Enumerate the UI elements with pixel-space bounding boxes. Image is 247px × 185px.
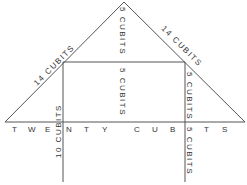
- apex-height-label: 5 CUBITS: [118, 7, 127, 55]
- base-letter: C: [134, 125, 140, 134]
- base-letter: S: [222, 125, 227, 134]
- room-height-center-label: 5 CUBITS: [118, 68, 127, 116]
- room-height-right-label: 5 CUBITS: [185, 72, 194, 120]
- base-letter: E: [45, 125, 50, 134]
- base-letter: Y: [102, 125, 108, 134]
- base-letter: T: [204, 125, 209, 134]
- base-letter: W: [28, 125, 36, 134]
- base-letter: T: [84, 125, 89, 134]
- right-lower-label: 5 CUBITS: [185, 127, 194, 175]
- left-slope-label: 14 CUBITS: [32, 43, 77, 88]
- left-post-label: 10 CUBITS: [54, 104, 63, 158]
- tabernacle-measurement-diagram: 14 CUBITS 14 CUBITS 5 CUBITS 5 CUBITS 5 …: [0, 0, 247, 185]
- base-letter: N: [66, 125, 72, 134]
- base-letter: T: [12, 125, 17, 134]
- base-letter: U: [152, 125, 158, 134]
- base-letter: B: [170, 125, 175, 134]
